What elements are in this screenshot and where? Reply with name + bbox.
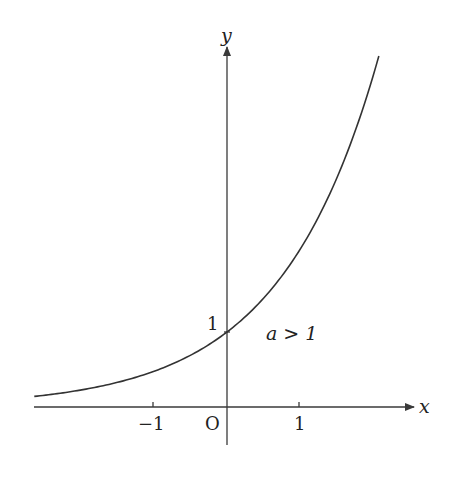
origin-label: O [205,413,220,434]
y-axis-label: y [220,24,232,46]
x-axis-label: x [419,395,430,417]
condition-label: a > 1 [266,322,317,344]
x-tick-label-minus-1: −1 [138,413,165,434]
x-tick-label-1: 1 [294,413,305,434]
exponential-curve [34,56,379,396]
exponential-graph: y x O −1 1 1 a > 1 [0,0,460,484]
y-tick-label-1: 1 [207,313,218,334]
